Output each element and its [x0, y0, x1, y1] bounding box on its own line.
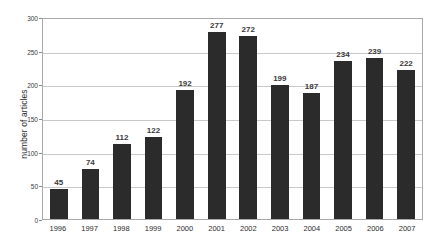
x-axis-tick-label: 2003 [264, 222, 296, 236]
bar-value-label: 199 [264, 74, 296, 84]
y-axis-tick-label: 250 [14, 49, 38, 56]
bar-value-label: 272 [232, 25, 264, 35]
bar-value-label: 239 [359, 47, 391, 57]
bar [82, 169, 100, 219]
bar-group: 74 [75, 19, 107, 219]
bar-value-label: 187 [296, 82, 328, 92]
bar [113, 144, 131, 219]
x-axis-tick-label: 2004 [296, 222, 328, 236]
bar-group: 222 [390, 19, 422, 219]
bar-value-label: 112 [106, 133, 138, 143]
x-axis-tick-label: 1999 [137, 222, 169, 236]
bar-group: 234 [327, 19, 359, 219]
bar [303, 93, 321, 219]
bar-group: 192 [169, 19, 201, 219]
bar-group: 112 [106, 19, 138, 219]
bar-value-label: 74 [75, 158, 107, 168]
y-axis-tick-label: 300 [14, 15, 38, 22]
x-axis-tick-labels: 1996199719981999200020012002200320042005… [42, 222, 423, 236]
x-axis-tick-label: 1998 [106, 222, 138, 236]
x-axis-tick-label: 1997 [74, 222, 106, 236]
bars-container: 4574112122192277272199187234239222 [43, 19, 422, 219]
x-axis-tick-label: 2000 [169, 222, 201, 236]
bar-value-label: 222 [390, 59, 422, 69]
bar-value-label: 45 [43, 178, 75, 188]
bar [397, 70, 415, 219]
y-axis-tick-label: 0 [14, 217, 38, 224]
bar-value-label: 122 [138, 126, 170, 136]
bar-value-label: 192 [169, 79, 201, 89]
bar-group: 199 [264, 19, 296, 219]
bar-group: 122 [138, 19, 170, 219]
x-axis-tick-label: 2006 [360, 222, 392, 236]
y-axis-tick-mark [39, 220, 42, 221]
bar-group: 272 [232, 19, 264, 219]
bar [334, 61, 352, 219]
bar-group: 187 [296, 19, 328, 219]
bar [239, 36, 257, 219]
bar [271, 85, 289, 219]
bar [176, 90, 194, 219]
y-axis-tick-labels: 300250200150100500 [12, 18, 38, 220]
y-axis-tick-label: 100 [14, 150, 38, 157]
bar [50, 189, 68, 219]
x-axis-tick-label: 2002 [233, 222, 265, 236]
x-axis-tick-label: 2005 [328, 222, 360, 236]
bar-group: 239 [359, 19, 391, 219]
x-axis-tick-label: 2001 [201, 222, 233, 236]
bar-value-label: 234 [327, 50, 359, 60]
plot-area: 4574112122192277272199187234239222 [42, 18, 423, 220]
bar [366, 58, 384, 219]
y-axis-tick-label: 50 [14, 183, 38, 190]
bar-group: 45 [43, 19, 75, 219]
bar [208, 32, 226, 219]
bar-group: 277 [201, 19, 233, 219]
bar-chart: number of articles 300250200150100500 45… [0, 0, 440, 248]
y-axis-tick-label: 150 [14, 116, 38, 123]
bar-value-label: 277 [201, 21, 233, 31]
x-axis-tick-label: 2007 [391, 222, 423, 236]
x-axis-tick-label: 1996 [42, 222, 74, 236]
y-axis-tick-label: 200 [14, 82, 38, 89]
bar [145, 137, 163, 219]
